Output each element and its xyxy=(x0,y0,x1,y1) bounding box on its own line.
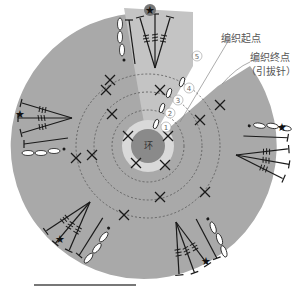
svg-text:2: 2 xyxy=(168,110,172,118)
scale-rule xyxy=(34,284,136,286)
star-icon: ★ xyxy=(15,108,25,121)
end-label: 编织终点 xyxy=(250,52,290,64)
star-icon: ★ xyxy=(277,121,287,134)
star-icon: ★ xyxy=(201,255,211,268)
center-label: 环 xyxy=(144,141,153,151)
svg-text:5: 5 xyxy=(195,53,199,61)
star-icon: ★ xyxy=(145,4,155,17)
svg-text:4: 4 xyxy=(187,85,192,93)
svg-text:1: 1 xyxy=(164,124,168,132)
star-icon: ★ xyxy=(55,233,65,246)
svg-text:3: 3 xyxy=(176,97,180,105)
end-label-note: （引拔针） xyxy=(246,66,296,78)
start-label: 编织起点 xyxy=(221,33,261,45)
